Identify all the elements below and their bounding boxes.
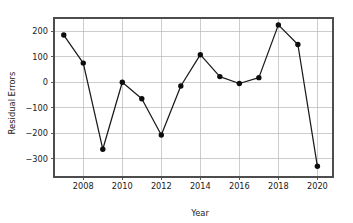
- data-point-marker: [295, 42, 300, 47]
- data-point-marker: [178, 83, 183, 88]
- data-point-marker: [237, 81, 242, 86]
- data-point-marker: [256, 75, 261, 80]
- residual-errors-line-chart: 2008201020122014201620182020 2001000−100…: [0, 0, 353, 223]
- data-point-marker: [276, 22, 281, 27]
- data-point-marker: [81, 60, 86, 65]
- data-point-marker: [100, 147, 105, 152]
- data-point-marker: [139, 96, 144, 101]
- data-point-marker: [120, 80, 125, 85]
- chart-background: [0, 0, 353, 223]
- x-tick-label: 2012: [151, 181, 172, 191]
- y-tick-label: 200: [32, 26, 48, 36]
- x-tick-label: 2018: [268, 181, 289, 191]
- y-tick-label: 0: [43, 77, 48, 87]
- x-tick-label: 2016: [229, 181, 250, 191]
- data-point-marker: [217, 74, 222, 79]
- x-tick-label: 2010: [112, 181, 133, 191]
- y-tick-label: −300: [26, 154, 49, 164]
- y-tick-label: 100: [32, 52, 48, 62]
- data-point-marker: [61, 32, 66, 37]
- x-axis-title: Year: [190, 208, 209, 218]
- x-tick-label: 2008: [73, 181, 94, 191]
- y-tick-label: −200: [26, 128, 49, 138]
- data-point-marker: [159, 132, 164, 137]
- data-point-marker: [315, 164, 320, 169]
- y-tick-label: −100: [26, 103, 49, 113]
- chart-canvas: 2008201020122014201620182020 2001000−100…: [0, 0, 353, 223]
- x-tick-label: 2020: [307, 181, 328, 191]
- y-axis-title: Residual Errors: [7, 72, 17, 135]
- data-point-marker: [198, 52, 203, 57]
- x-tick-label: 2014: [190, 181, 211, 191]
